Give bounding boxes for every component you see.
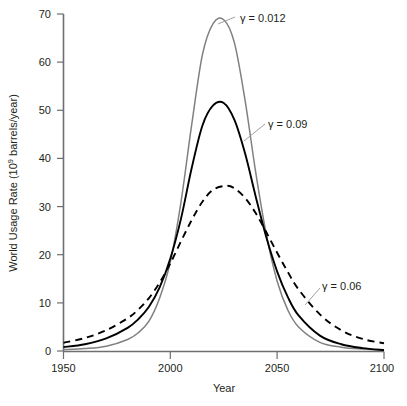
y-tick-label-30: 30 — [39, 201, 51, 213]
y-axis-title: World Usage Rate (109 barrels/year) — [6, 94, 19, 272]
annotation-gamma-0012: γ = 0.012 — [240, 12, 286, 24]
x-tick-label-2000: 2000 — [158, 362, 182, 374]
annotation-gamma-006: γ = 0.06 — [322, 280, 361, 292]
x-tick-label-2050: 2050 — [265, 362, 289, 374]
annotation-gamma-009-value: = 0.09 — [274, 118, 308, 130]
y-axis-title-tail: barrels/year) — [7, 94, 19, 159]
y-tick-label-20: 20 — [39, 249, 51, 261]
y-tick-label-50: 50 — [39, 104, 51, 116]
y-tick-label-70: 70 — [39, 8, 51, 20]
leader-line-gamma-009 — [244, 124, 265, 141]
x-tick-label-2100: 2100 — [370, 362, 394, 374]
annotation-gamma-009: γ = 0.09 — [268, 118, 307, 130]
y-tick-label-0: 0 — [45, 345, 51, 357]
y-tick-label-10: 10 — [39, 297, 51, 309]
curve-gamma-006 — [64, 186, 385, 343]
annotation-leader-lines — [218, 17, 320, 305]
curve-gamma-009 — [64, 102, 385, 350]
svg-text:World Usage Rate (109 barrels/: World Usage Rate (109 barrels/year) — [6, 94, 19, 272]
annotation-gamma-006-value: = 0.06 — [328, 280, 362, 292]
chart-container: 70 60 50 40 30 20 10 0 1950 2000 2050 21… — [0, 0, 407, 406]
x-tick-labels-group: 1950 2000 2050 2100 — [51, 362, 394, 374]
usage-rate-line-chart: 70 60 50 40 30 20 10 0 1950 2000 2050 21… — [0, 0, 407, 406]
curve-gamma-0012 — [64, 18, 385, 350]
y-ticks-group — [57, 14, 64, 351]
data-curves-group — [64, 18, 385, 350]
leader-line-gamma-006 — [305, 288, 320, 305]
x-tick-label-1950: 1950 — [51, 362, 75, 374]
y-tick-labels-group: 70 60 50 40 30 20 10 0 — [39, 8, 51, 357]
axes-group — [63, 14, 384, 352]
x-ticks-group — [64, 352, 385, 360]
y-tick-label-40: 40 — [39, 152, 51, 164]
y-axis-title-main: World Usage Rate (10 — [7, 163, 19, 272]
x-axis-title: Year — [213, 382, 236, 394]
annotation-labels-group: γ = 0.012 γ = 0.09 γ = 0.06 — [240, 12, 361, 292]
y-tick-label-60: 60 — [39, 56, 51, 68]
annotation-gamma-0012-value: = 0.012 — [246, 12, 286, 24]
